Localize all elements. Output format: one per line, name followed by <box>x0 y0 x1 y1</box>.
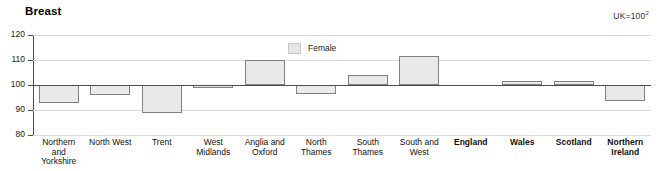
bar-north-thames <box>296 85 336 94</box>
y-axis-label-90: 90 <box>0 105 25 114</box>
x-axis-label-line: Ireland <box>597 148 655 158</box>
x-axis-label-line: Oxford <box>236 148 294 158</box>
y-axis-label-100: 100 <box>0 80 25 89</box>
bar-south-thames <box>348 75 388 85</box>
x-axis-label-north-west: North West <box>82 138 140 148</box>
uk-baseline-note: UK=1002 <box>613 11 649 21</box>
x-axis-label-trent: Trent <box>133 138 191 148</box>
y-axis-label-120: 120 <box>0 30 25 39</box>
bar-anglia-and-oxford <box>245 60 285 85</box>
x-axis-label-line: England <box>442 138 500 148</box>
x-axis-label-south-thames: SouthThames <box>339 138 397 157</box>
y-tick-120 <box>28 35 33 36</box>
legend-label-female: Female <box>308 44 336 53</box>
page-title: Breast <box>25 5 61 18</box>
x-axis-label-northern-and-yorkshire: NorthernandYorkshire <box>30 138 88 167</box>
x-axis-label-line: Trent <box>133 138 191 148</box>
gridline-110 <box>33 60 651 61</box>
x-axis-label-line: West <box>391 148 449 158</box>
bar-northern-and-yorkshire <box>39 85 79 103</box>
bar-trent <box>142 85 182 113</box>
plot-area <box>33 35 651 135</box>
x-axis-label-line: Scotland <box>545 138 603 148</box>
x-axis-label-scotland: Scotland <box>545 138 603 148</box>
y-tick-90 <box>28 110 33 111</box>
uk-note-superscript: 2 <box>645 10 649 16</box>
y-tick-80 <box>28 135 33 136</box>
baseline-gridline <box>33 85 651 86</box>
chart-legend: Female <box>288 43 336 54</box>
x-axis-label-line: Wales <box>494 138 552 148</box>
x-axis-label-northern-ireland: NorthernIreland <box>597 138 655 157</box>
x-axis-label-line: North West <box>82 138 140 148</box>
x-axis-category-labels: NorthernandYorkshireNorth WestTrentWestM… <box>33 138 651 171</box>
x-axis-label-line: Thames <box>339 148 397 158</box>
x-axis-label-line: Midlands <box>185 148 243 158</box>
x-axis-label-line: Yorkshire <box>30 157 88 167</box>
x-axis-label-anglia-and-oxford: Anglia andOxford <box>236 138 294 157</box>
gridline-120 <box>33 35 651 36</box>
bar-north-west <box>90 85 130 95</box>
chart-container: Breast UK=1002 Female NorthernandYorkshi… <box>0 0 663 171</box>
x-axis-label-england: England <box>442 138 500 148</box>
x-axis-label-north-thames: NorthThames <box>288 138 346 157</box>
y-tick-110 <box>28 60 33 61</box>
x-axis-label-west-midlands: WestMidlands <box>185 138 243 157</box>
gridline-80 <box>33 135 651 136</box>
bar-south-and-west <box>399 56 439 85</box>
legend-swatch-female <box>288 43 301 54</box>
x-axis-label-line: Thames <box>288 148 346 158</box>
x-axis-label-wales: Wales <box>494 138 552 148</box>
gridline-90 <box>33 110 651 111</box>
bar-northern-ireland <box>605 85 645 101</box>
y-axis-label-110: 110 <box>0 55 25 64</box>
uk-note-text: UK=100 <box>613 11 645 21</box>
x-axis-label-south-and-west: South andWest <box>391 138 449 157</box>
y-axis-label-80: 80 <box>0 130 25 139</box>
